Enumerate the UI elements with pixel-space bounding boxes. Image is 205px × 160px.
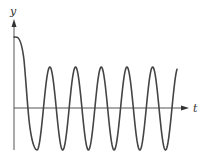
response-curve	[14, 37, 177, 150]
y-axis-arrow-icon	[12, 19, 17, 27]
x-axis-label: t	[193, 102, 198, 115]
x-axis-arrow-icon	[181, 106, 189, 111]
chart: y t	[0, 0, 205, 160]
y-axis-label: y	[9, 5, 17, 18]
